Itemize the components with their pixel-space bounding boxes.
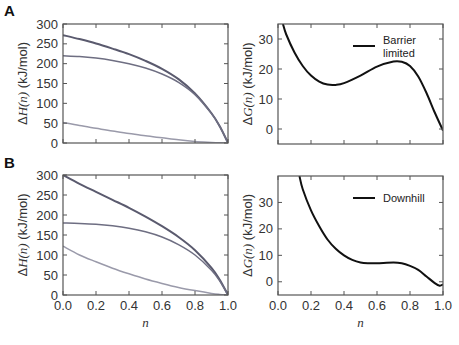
y-tick-label: 0: [266, 274, 273, 289]
y-tick-label: 200: [36, 56, 58, 71]
x-tick-label: 0.6: [153, 298, 171, 313]
y-tick-label: 10: [259, 92, 273, 107]
y-tick-label: 300: [36, 168, 58, 183]
y-tick-label: 30: [259, 32, 273, 47]
y-tick-label: 150: [36, 76, 58, 91]
y-axis-label: ΔH(n) (kJ/mol): [15, 42, 30, 125]
y-tick-label: 100: [36, 96, 58, 111]
x-tick-label: 0.2: [87, 298, 105, 313]
x-tick-label: 0.2: [302, 298, 320, 313]
y-tick-label: 300: [36, 17, 58, 32]
chart-b-right: 01020300.00.20.40.60.81.0ΔG(n) (kJ/mol)n…: [240, 176, 452, 330]
y-axis-label: ΔG(n) (kJ/mol): [240, 194, 255, 277]
y-tick-label: 20: [259, 62, 273, 77]
x-tick-label: 0.6: [368, 298, 386, 313]
series-line: [283, 24, 443, 131]
x-tick-label: 0.8: [186, 298, 204, 313]
legend-label: Barrierlimited: [383, 34, 416, 59]
x-tick-label: 0.8: [401, 298, 419, 313]
y-tick-label: 100: [36, 248, 58, 263]
plot-frame: [63, 175, 228, 295]
legend-label: Downhill: [383, 192, 425, 204]
y-tick-label: 150: [36, 228, 58, 243]
cropped-caption-strip: [0, 338, 459, 345]
y-tick-label: 0: [51, 136, 58, 151]
series-line: [63, 122, 228, 143]
y-tick-label: 10: [259, 248, 273, 263]
x-tick-label: 1.0: [434, 298, 452, 313]
chart-a-right: 0102030ΔG(n) (kJ/mol)Barrierlimited: [240, 24, 443, 144]
x-tick-label: 0.4: [120, 298, 138, 313]
y-tick-label: 50: [44, 116, 58, 131]
y-tick-label: 200: [36, 208, 58, 223]
chart-a-left: 050100150200250300ΔH(n) (kJ/mol): [15, 17, 228, 151]
x-axis-label: n: [142, 315, 149, 330]
figure-canvas: 050100150200250300ΔH(n) (kJ/mol)0102030Δ…: [0, 0, 459, 345]
plot-frame: [278, 24, 443, 144]
y-tick-label: 0: [266, 122, 273, 137]
chart-b-left: 0501001502002503000.00.20.40.60.81.0ΔH(n…: [15, 168, 237, 331]
series-line: [63, 246, 228, 295]
series-line: [63, 175, 228, 295]
x-tick-label: 0.0: [269, 298, 287, 313]
y-tick-label: 50: [44, 268, 58, 283]
y-tick-label: 250: [36, 36, 58, 51]
x-tick-label: 0.0: [54, 298, 72, 313]
x-tick-label: 1.0: [219, 298, 237, 313]
y-tick-label: 30: [259, 195, 273, 210]
series-line: [63, 56, 228, 143]
y-tick-label: 250: [36, 188, 58, 203]
y-tick-label: 20: [259, 221, 273, 236]
x-axis-label: n: [357, 315, 364, 330]
y-axis-label: ΔG(n) (kJ/mol): [240, 42, 255, 125]
y-axis-label: ΔH(n) (kJ/mol): [15, 193, 30, 276]
x-tick-label: 0.4: [335, 298, 353, 313]
